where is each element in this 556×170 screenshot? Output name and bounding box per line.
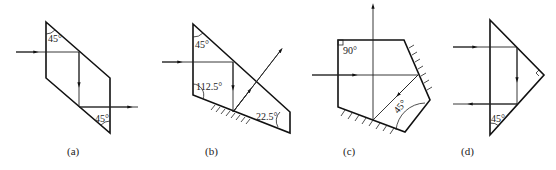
- panel-d-right-angle-prism: 45° (d): [453, 20, 544, 158]
- caption-b: (b): [205, 145, 218, 158]
- caption-d: (d): [461, 145, 474, 158]
- angle-label: 45°: [48, 33, 62, 44]
- angle-label: 112.5°: [196, 81, 222, 92]
- angle-label: 90°: [343, 45, 357, 56]
- angle-label: 45°: [195, 39, 209, 50]
- panel-c-pentaprism: 90° 45° (c): [312, 6, 432, 158]
- angle-label: 45°: [491, 113, 505, 124]
- prism-diagram: 45° 45° (a) 45° 112.5° 22.5° (b): [0, 0, 556, 170]
- angle-label: 45°: [95, 113, 109, 124]
- caption-a: (a): [67, 145, 80, 158]
- mirror-hatching: [341, 45, 432, 134]
- angle-label: 22.5°: [256, 111, 278, 122]
- caption-c: (c): [343, 145, 356, 158]
- panel-b-prism: 45° 112.5° 22.5° (b): [162, 24, 290, 158]
- panel-a-rhomboid-prism: 45° 45° (a): [16, 22, 138, 158]
- angle-label: 45°: [391, 97, 408, 115]
